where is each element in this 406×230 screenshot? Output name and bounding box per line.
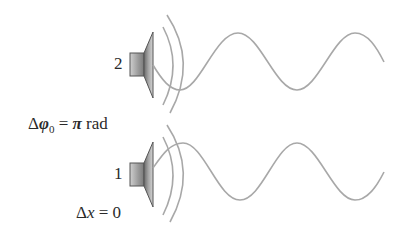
speaker-2-icon <box>130 32 153 98</box>
delta-symbol: Δ <box>76 203 87 222</box>
unit-label: rad <box>82 114 108 133</box>
phase-difference-label: Δφ0 = π rad <box>28 114 108 135</box>
speaker-1-label: 1 <box>114 164 123 184</box>
speaker-1-icon <box>130 142 153 207</box>
wave-1 <box>153 143 384 200</box>
wave-2 <box>153 33 384 90</box>
delta-symbol: Δ <box>28 114 39 133</box>
path-difference-label: Δx = 0 <box>76 203 121 223</box>
pi-symbol: π <box>72 114 81 133</box>
equals-sign: = <box>54 114 72 133</box>
speaker-2-label: 2 <box>114 54 123 74</box>
value: 0 <box>113 203 122 222</box>
sound-arcs-1 <box>163 125 183 222</box>
equals-sign: = <box>94 203 112 222</box>
phi-symbol: φ <box>39 114 49 133</box>
sound-arcs-2 <box>163 15 183 113</box>
